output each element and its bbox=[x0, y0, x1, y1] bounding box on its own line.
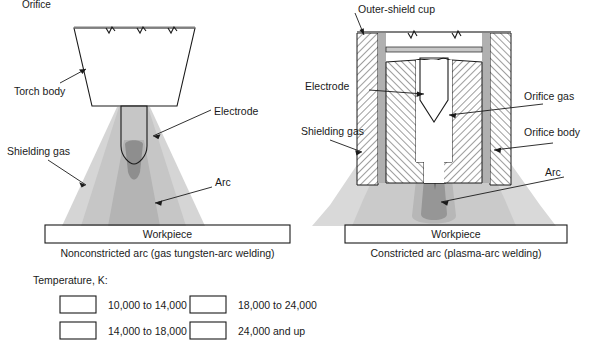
left-workpiece-label: Workpiece bbox=[143, 228, 193, 240]
right-label-outer-shield-cup: Outer-shield cup bbox=[358, 3, 435, 15]
right-workpiece-label: Workpiece bbox=[431, 228, 481, 240]
right-right-gas-channel bbox=[482, 33, 490, 183]
left-diagram-group: Workpiece Nonconstricted arc (gas tungst… bbox=[7, 27, 290, 259]
legend-group: Temperature, K: 10,000 to 14,000 14,000 … bbox=[33, 274, 317, 339]
legend-label-2: 18,000 to 24,000 bbox=[238, 299, 317, 311]
diagram-svg-canvas: Orifice Workpiece Nonconstrict bbox=[0, 0, 598, 364]
legend-label-0: 10,000 to 14,000 bbox=[108, 299, 187, 311]
right-outer-cup-left-wall bbox=[357, 33, 378, 185]
left-label-shielding-gas: Shielding gas bbox=[7, 145, 70, 157]
right-cup-inner-divider bbox=[386, 47, 482, 52]
right-label-arc: Arc bbox=[545, 166, 561, 178]
left-label-electrode: Electrode bbox=[214, 105, 259, 117]
right-diagram-group: Workpiece Constricted arc (plasma-arc we… bbox=[301, 3, 581, 259]
right-diagram-caption: Constricted arc (plasma-arc welding) bbox=[371, 247, 542, 259]
legend-swatch-3 bbox=[190, 322, 226, 339]
legend-label-1: 14,000 to 18,000 bbox=[108, 325, 187, 337]
left-label-torch-body: Torch body bbox=[14, 85, 66, 97]
left-torch-body bbox=[74, 28, 195, 106]
left-leader-electrode bbox=[153, 110, 211, 136]
legend-swatch-1 bbox=[60, 322, 96, 339]
left-label-arc: Arc bbox=[215, 176, 231, 188]
left-diagram-caption: Nonconstricted arc (gas tungsten-arc wel… bbox=[60, 247, 274, 259]
welding-arc-comparison-figure: Orifice Workpiece Nonconstrict bbox=[0, 0, 598, 364]
legend-title: Temperature, K: bbox=[33, 274, 108, 286]
left-leader-shielding-gas bbox=[48, 160, 86, 185]
right-label-electrode: Electrode bbox=[305, 80, 350, 92]
legend-swatch-0 bbox=[60, 296, 96, 313]
top-cropped-text: Orifice bbox=[22, 0, 51, 10]
right-left-gas-channel bbox=[378, 33, 386, 183]
legend-swatch-2 bbox=[190, 296, 226, 313]
legend-label-3: 24,000 and up bbox=[238, 325, 305, 337]
right-label-shielding-gas: Shielding gas bbox=[301, 125, 364, 137]
right-label-orifice-body: Orifice body bbox=[524, 126, 581, 138]
right-label-orifice-gas: Orifice gas bbox=[524, 90, 574, 102]
